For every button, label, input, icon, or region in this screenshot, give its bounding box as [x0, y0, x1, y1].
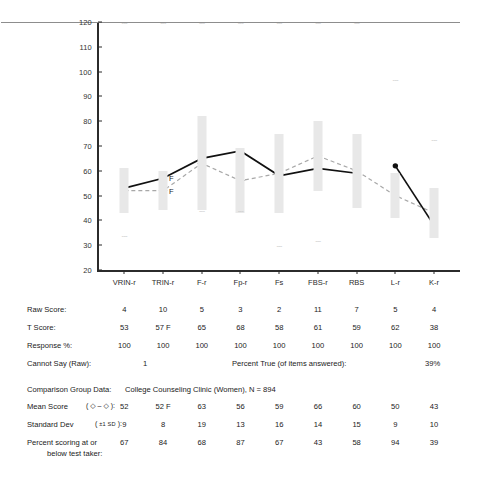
cell-k-r: 38: [414, 323, 454, 332]
scores-table: Raw Score:41053211754T Score:5357 F65685…: [0, 305, 481, 365]
cell-fp-r: 3: [220, 305, 260, 314]
cell-f-r: 68: [182, 438, 222, 447]
cell-fs: 2: [259, 305, 299, 314]
comparison-group-table: Mean Score( ◇ – ◇ ):5252 F63565966605043…: [0, 402, 481, 462]
cell-rbs: 100: [337, 341, 377, 350]
cell-k-r: 39: [414, 438, 454, 447]
percent-true-label: Percent True (of items answered):: [232, 359, 346, 368]
cell-fs: 59: [259, 402, 299, 411]
sd-band-fs: [275, 134, 284, 213]
x-axis-tick-mark: [201, 270, 202, 274]
row-label: Response %:: [27, 341, 72, 350]
cell-f-r: 63: [182, 402, 222, 411]
sd-band-rbs: [352, 134, 361, 208]
cell-l-r: 5: [375, 305, 415, 314]
cell-trin-r: 84: [143, 438, 183, 447]
sd-band-trin-r: [159, 171, 168, 211]
sd-band-l-r: [391, 173, 400, 218]
sd-overflow-marker-bottom: ---: [199, 207, 205, 214]
cell-fbs-r: 100: [298, 341, 338, 350]
cell-rbs: 58: [337, 438, 377, 447]
y-axis-tick-label: 70: [60, 142, 92, 151]
comparison-group-value: College Counseling Clinic (Women), N = 8…: [125, 385, 276, 394]
comparison-group-label: Comparison Group Data:: [27, 385, 111, 394]
y-axis-tick-mark: [98, 121, 102, 122]
flag-annotation-0: F: [169, 174, 174, 183]
sd-overflow-marker-top: ---: [393, 76, 399, 83]
cell-fbs-r: 66: [298, 402, 338, 411]
y-axis-tick-label: 40: [60, 216, 92, 225]
x-axis-label-rbs: RBS: [349, 278, 364, 287]
cell-fs: 16: [259, 420, 299, 429]
sd-overflow-marker-top: ---: [199, 19, 205, 26]
y-axis-tick-mark: [98, 270, 102, 271]
row-label: Raw Score:: [27, 305, 66, 314]
y-axis-tick-label: 80: [60, 117, 92, 126]
cell-fp-r: 100: [220, 341, 260, 350]
cell-fs: 58: [259, 323, 299, 332]
cell-l-r: 62: [375, 323, 415, 332]
table-row: Raw Score:41053211754: [0, 305, 481, 319]
cell-trin-r: 100: [143, 341, 183, 350]
y-axis-tick-mark: [98, 245, 102, 246]
validity-scales-chart: 1201101009080706050403020VRIN-rTRIN-rF-r…: [0, 0, 481, 300]
cell-vrin-r: 4: [104, 305, 144, 314]
sd-band-f-r: [197, 116, 206, 210]
cell-vrin-r: 67: [104, 438, 144, 447]
row-label: Percent scoring at or: [27, 438, 97, 447]
t-score-line-segment-1: [395, 166, 434, 226]
mmpi-validity-scales-report: 1201101009080706050403020VRIN-rTRIN-rF-r…: [0, 0, 481, 480]
cell-rbs: 15: [337, 420, 377, 429]
sd-overflow-marker-bottom: ---: [431, 135, 437, 142]
cell-k-r: 100: [414, 341, 454, 350]
sd-overflow-marker-bottom: ---: [238, 207, 244, 214]
flag-annotation-1: F: [169, 186, 174, 195]
sd-overflow-marker-top: ---: [122, 19, 128, 26]
cell-fbs-r: 43: [298, 438, 338, 447]
y-axis-tick-mark: [98, 46, 102, 47]
sd-overflow-marker-top: ---: [276, 19, 282, 26]
y-axis-tick-label: 90: [60, 92, 92, 101]
cell-l-r: 94: [375, 438, 415, 447]
cannot-say-value: 1: [143, 359, 147, 368]
cell-fbs-r: 61: [298, 323, 338, 332]
cell-f-r: 65: [182, 323, 222, 332]
y-axis-tick-label: 20: [60, 266, 92, 275]
cell-rbs: 59: [337, 323, 377, 332]
cell-k-r: 43: [414, 402, 454, 411]
sd-overflow-marker-bottom: ---: [122, 232, 128, 239]
cell-f-r: 100: [182, 341, 222, 350]
x-axis-label-fs: Fs: [275, 278, 283, 287]
cannot-say-row: Cannot Say (Raw): 1 Percent True (of ite…: [0, 359, 481, 375]
row-label: Mean Score: [27, 402, 68, 411]
cell-fp-r: 87: [220, 438, 260, 447]
percent-true-value: 39%: [425, 359, 440, 368]
table-row: Response %:100100100100100100100100100: [0, 341, 481, 355]
y-axis-tick-label: 30: [60, 241, 92, 250]
sd-overflow-marker-bottom: ---: [315, 237, 321, 244]
y-axis-tick-label: 120: [60, 18, 92, 27]
sd-overflow-marker-top: ---: [238, 19, 244, 26]
t-score-marker-l-r: [393, 163, 398, 168]
cell-vrin-r: 53: [104, 323, 144, 332]
cell-vrin-r: 9: [104, 420, 144, 429]
table-row: Standard Dev( ±1 SD ):981913161415910: [0, 420, 481, 434]
cell-trin-r: 52 F: [143, 402, 183, 411]
cell-f-r: 19: [182, 420, 222, 429]
x-axis-label-f-r: F-r: [197, 278, 207, 287]
x-axis-tick-mark: [124, 270, 125, 274]
cell-k-r: 10: [414, 420, 454, 429]
y-axis-tick-mark: [98, 96, 102, 97]
cell-fbs-r: 14: [298, 420, 338, 429]
x-axis-tick-mark: [240, 270, 241, 274]
cell-f-r: 5: [182, 305, 222, 314]
cell-l-r: 50: [375, 402, 415, 411]
x-axis-tick-mark: [434, 270, 435, 274]
cell-rbs: 7: [337, 305, 377, 314]
sd-overflow-marker-bottom: ---: [276, 242, 282, 249]
x-axis-tick-mark: [279, 270, 280, 274]
cell-trin-r: 10: [143, 305, 183, 314]
table-row: T Score:5357 F65685861596238: [0, 323, 481, 337]
sd-overflow-marker-top: ---: [315, 19, 321, 26]
x-axis-tick-mark: [395, 270, 396, 274]
